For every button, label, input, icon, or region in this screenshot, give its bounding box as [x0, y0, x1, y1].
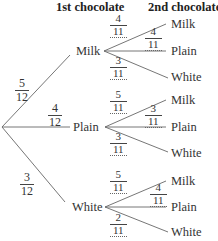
prob-milk-milk: 411	[110, 13, 127, 38]
prob-white-plain: 411	[150, 182, 167, 207]
header-second-chocolate: 2nd chocolate	[148, 0, 218, 15]
prob-root-white: 312	[20, 171, 34, 197]
leaf-white-plain: Plain	[171, 200, 197, 214]
prob-root-milk: 512	[15, 77, 29, 103]
leaf-milk-milk: Milk	[171, 17, 195, 31]
leaf-white-milk: Milk	[171, 174, 195, 188]
prob-milk-plain: 411	[145, 26, 162, 51]
leaf-milk-white: White	[171, 70, 202, 84]
node-first-white: White	[72, 200, 103, 214]
node-first-plain: Plain	[73, 120, 99, 134]
leaf-plain-white: White	[171, 146, 202, 160]
leaf-plain-plain: Plain	[171, 120, 197, 134]
prob-white-milk: 511	[110, 169, 127, 194]
leaf-milk-plain: Plain	[171, 44, 197, 58]
prob-milk-white: 311	[110, 55, 127, 80]
prob-plain-plain: 311	[145, 103, 162, 128]
node-first-milk: Milk	[76, 44, 100, 58]
leaf-white-white: White	[171, 225, 202, 239]
leaf-plain-milk: Milk	[171, 93, 195, 107]
prob-plain-milk: 511	[110, 89, 127, 114]
prob-plain-white: 311	[110, 131, 127, 156]
prob-white-white: 211	[110, 212, 127, 237]
prob-root-plain: 412	[48, 102, 62, 128]
